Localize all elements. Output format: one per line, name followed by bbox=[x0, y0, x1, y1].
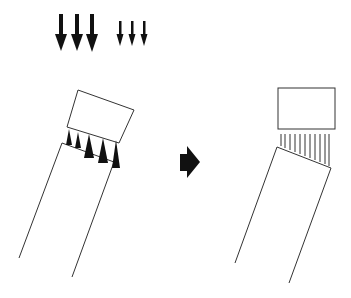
small-down-arrow-icon bbox=[117, 21, 148, 46]
uniform-force-lines bbox=[281, 134, 329, 166]
column bbox=[235, 147, 331, 283]
tilted-block bbox=[67, 90, 134, 143]
diagram-svg bbox=[0, 0, 351, 298]
right-panel bbox=[235, 88, 335, 283]
column bbox=[19, 143, 114, 277]
left-panel bbox=[19, 90, 134, 277]
large-down-arrow-icon bbox=[55, 14, 98, 52]
straight-block bbox=[278, 88, 335, 129]
right-arrow-icon bbox=[180, 146, 200, 178]
diagram-canvas bbox=[0, 0, 351, 298]
